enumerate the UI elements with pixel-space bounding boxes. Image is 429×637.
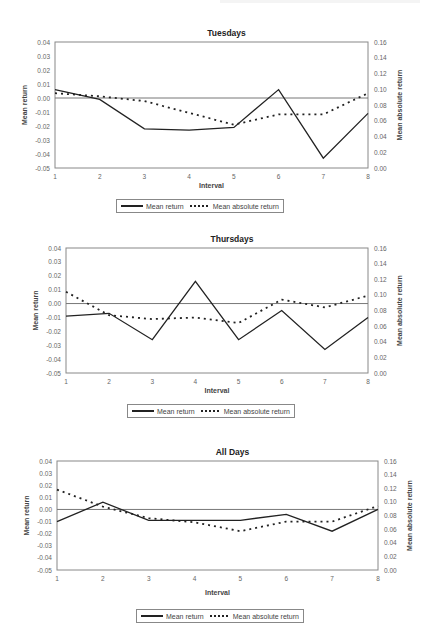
y-tick-label: 0.03 — [39, 470, 52, 477]
y-tick-label: -0.05 — [37, 567, 52, 574]
legend-swatch-mean-absolute-return — [210, 615, 228, 617]
legend-label-mean-return: Mean return — [166, 613, 204, 620]
x-axis-label: Interval — [205, 589, 230, 596]
legend: Mean return Mean absolute return — [136, 609, 304, 623]
x-tick-label: 6 — [284, 575, 288, 582]
y2-tick-label: 0.10 — [384, 498, 397, 505]
plot-frame — [57, 461, 378, 570]
x-tick-label: 3 — [147, 575, 151, 582]
x-tick-label: 5 — [239, 575, 243, 582]
legend-swatch-mean-return — [141, 615, 163, 617]
series-line-mean-absolute-return — [57, 490, 378, 532]
chart-title: All Days — [216, 447, 250, 457]
y-tick-label: 0.00 — [39, 506, 52, 513]
y-tick-label: -0.04 — [37, 554, 52, 561]
series-line-mean-return — [57, 502, 378, 531]
y2-tick-label: 0.02 — [384, 553, 397, 560]
y-tick-label: -0.02 — [37, 530, 52, 537]
x-tick-label: 8 — [376, 575, 380, 582]
chart-svg: All Days0.040.030.020.010.00-0.01-0.02-0… — [0, 0, 429, 637]
y2-tick-label: 0.08 — [384, 512, 397, 519]
y-tick-label: 0.04 — [39, 458, 52, 465]
y2-tick-label: 0.00 — [384, 567, 397, 574]
y-tick-label: 0.02 — [39, 482, 52, 489]
x-tick-label: 2 — [101, 575, 105, 582]
x-tick-label: 1 — [55, 575, 59, 582]
y2-axis-label: Mean absolute return — [406, 480, 413, 551]
y-tick-label: 0.01 — [39, 494, 52, 501]
y-axis-label: Mean return — [23, 495, 30, 535]
x-tick-label: 7 — [330, 575, 334, 582]
y2-tick-label: 0.16 — [384, 458, 397, 465]
y2-tick-label: 0.04 — [384, 539, 397, 546]
y-tick-label: -0.03 — [37, 542, 52, 549]
x-tick-label: 4 — [193, 575, 197, 582]
y2-tick-label: 0.14 — [384, 471, 397, 478]
y2-tick-label: 0.06 — [384, 526, 397, 533]
y-tick-label: -0.01 — [37, 518, 52, 525]
legend-label-mean-absolute-return: Mean absolute return — [233, 613, 299, 620]
y2-tick-label: 0.12 — [384, 485, 397, 492]
chart-all-days: All Days0.040.030.020.010.00-0.01-0.02-0… — [0, 0, 429, 637]
